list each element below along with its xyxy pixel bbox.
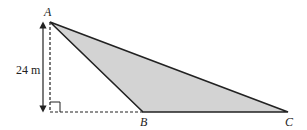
shaded-triangle-abc (50, 22, 288, 112)
label-b: B (140, 115, 148, 129)
label-c: C (285, 115, 294, 129)
label-a: A (43, 5, 52, 19)
triangle-diagram: A B C 24 m (0, 0, 307, 130)
height-measurement: 24 m (16, 63, 41, 77)
right-angle-marker (50, 102, 60, 112)
